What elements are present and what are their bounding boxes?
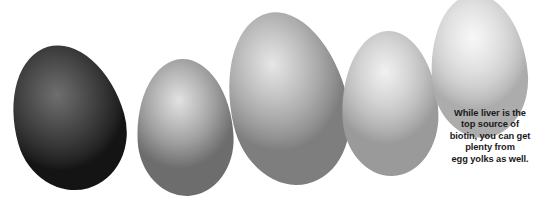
egg-infographic: While liver is the top source of biotin,… xyxy=(0,0,545,201)
caption-line-1: While liver is the xyxy=(437,108,543,119)
caption-line-5: egg yolks as well. xyxy=(437,154,543,165)
caption-line-4: plenty from xyxy=(437,142,543,153)
egg-largest xyxy=(211,0,364,197)
egg-medium-dark xyxy=(133,57,236,199)
egg-darkest xyxy=(0,32,141,201)
egg-light xyxy=(339,29,440,177)
caption-text: While liver is the top source of biotin,… xyxy=(437,108,543,165)
caption-line-2: top source of xyxy=(437,119,543,130)
caption-line-3: biotin, you can get xyxy=(437,131,543,142)
